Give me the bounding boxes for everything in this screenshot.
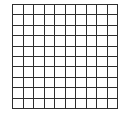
grid-cell bbox=[96, 77, 107, 87]
grid-cell bbox=[33, 35, 44, 45]
grid-cell bbox=[65, 66, 76, 76]
ten-by-ten-grid bbox=[12, 4, 118, 109]
grid-cell bbox=[12, 4, 23, 14]
grid-cell bbox=[65, 87, 76, 97]
grid-cell bbox=[65, 46, 76, 56]
grid-cell bbox=[65, 98, 76, 108]
grid-cell bbox=[23, 66, 34, 76]
grid-cell bbox=[44, 14, 55, 24]
grid-cell bbox=[86, 77, 97, 87]
grid-cell bbox=[54, 77, 65, 87]
grid-cell bbox=[96, 14, 107, 24]
grid-cell bbox=[12, 25, 23, 35]
grid-cell bbox=[65, 56, 76, 66]
grid-cell bbox=[107, 56, 118, 66]
grid-cell bbox=[75, 14, 86, 24]
grid-cell bbox=[96, 35, 107, 45]
grid-cell bbox=[23, 77, 34, 87]
grid-cell bbox=[33, 56, 44, 66]
grid-cell bbox=[54, 66, 65, 76]
grid-cell bbox=[23, 35, 34, 45]
grid-cell bbox=[96, 4, 107, 14]
grid-cell bbox=[86, 25, 97, 35]
grid-cell bbox=[12, 98, 23, 108]
grid-cell bbox=[54, 4, 65, 14]
grid-cell bbox=[12, 14, 23, 24]
grid-cell bbox=[75, 35, 86, 45]
grid-cell bbox=[12, 35, 23, 45]
grid-cell bbox=[86, 14, 97, 24]
grid-cell bbox=[75, 56, 86, 66]
grid-cell bbox=[75, 66, 86, 76]
grid-cell bbox=[86, 56, 97, 66]
grid-cell bbox=[44, 66, 55, 76]
grid-cell bbox=[107, 46, 118, 56]
grid-cell bbox=[96, 46, 107, 56]
grid-cell bbox=[54, 25, 65, 35]
grid-cell bbox=[96, 25, 107, 35]
grid-cell bbox=[65, 25, 76, 35]
grid-cell bbox=[75, 87, 86, 97]
grid-cell bbox=[54, 87, 65, 97]
grid-cell bbox=[54, 14, 65, 24]
grid-cell bbox=[23, 98, 34, 108]
grid-cell bbox=[75, 25, 86, 35]
grid-cell bbox=[96, 66, 107, 76]
grid-cell bbox=[44, 87, 55, 97]
grid-cell bbox=[44, 35, 55, 45]
grid-cell bbox=[75, 46, 86, 56]
grid-cell bbox=[107, 98, 118, 108]
grid-cell bbox=[65, 4, 76, 14]
grid-cell bbox=[86, 35, 97, 45]
grid-cell bbox=[107, 77, 118, 87]
grid-cell bbox=[44, 77, 55, 87]
grid-cell bbox=[23, 56, 34, 66]
grid-cell bbox=[23, 87, 34, 97]
grid-cell bbox=[96, 87, 107, 97]
grid-cell bbox=[12, 77, 23, 87]
grid-cell bbox=[33, 25, 44, 35]
grid-cell bbox=[23, 4, 34, 14]
grid-cell bbox=[33, 87, 44, 97]
grid-cell bbox=[75, 4, 86, 14]
grid-cell bbox=[75, 77, 86, 87]
grid-cell bbox=[65, 77, 76, 87]
grid-cell bbox=[12, 46, 23, 56]
grid-cell bbox=[107, 14, 118, 24]
grid-cell bbox=[54, 46, 65, 56]
grid-cell bbox=[107, 87, 118, 97]
grid-cell bbox=[65, 14, 76, 24]
grid-cell bbox=[12, 87, 23, 97]
grid-cell bbox=[44, 4, 55, 14]
grid-cell bbox=[23, 25, 34, 35]
grid-cell bbox=[86, 66, 97, 76]
grid-cell bbox=[23, 14, 34, 24]
grid-cell bbox=[33, 4, 44, 14]
grid-cell bbox=[33, 98, 44, 108]
grid-cell bbox=[96, 56, 107, 66]
grid-cell bbox=[44, 25, 55, 35]
grid-cell bbox=[54, 35, 65, 45]
grid-cell bbox=[33, 66, 44, 76]
grid-cell bbox=[54, 98, 65, 108]
grid-cell bbox=[54, 56, 65, 66]
grid-cell bbox=[75, 98, 86, 108]
grid-cell bbox=[33, 77, 44, 87]
grid-cell bbox=[12, 66, 23, 76]
grid-cell bbox=[86, 4, 97, 14]
grid-cell bbox=[23, 46, 34, 56]
grid-cell bbox=[107, 4, 118, 14]
grid-cell bbox=[86, 87, 97, 97]
grid-cell bbox=[96, 98, 107, 108]
grid-cell bbox=[44, 46, 55, 56]
grid-cell bbox=[107, 35, 118, 45]
grid-cell bbox=[107, 25, 118, 35]
grid-cell bbox=[12, 56, 23, 66]
grid-cell bbox=[33, 14, 44, 24]
grid-cell bbox=[44, 56, 55, 66]
grid-cell bbox=[65, 35, 76, 45]
grid-cell bbox=[107, 66, 118, 76]
grid-cell bbox=[33, 46, 44, 56]
grid-cell bbox=[86, 46, 97, 56]
grid-cell bbox=[44, 98, 55, 108]
